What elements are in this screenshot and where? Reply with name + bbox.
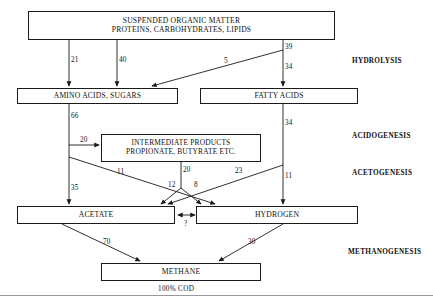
edge-label-suspended-to-fatty-39: 39 [285, 43, 292, 51]
node-label-line1: FATTY ACIDS [254, 92, 303, 101]
stage-label-acetogenesis: ACETOGENESIS [352, 169, 412, 177]
edge-label-intermediate-to-hydrogen-8: 8 [194, 181, 198, 189]
bottom-divider [0, 295, 433, 296]
stage-label-hydrolysis: HYDROLYSIS [352, 57, 402, 65]
arrow-acetate-to-methane-70 [62, 224, 140, 261]
arrow-intermediate-to-hydrogen-8 [181, 188, 201, 204]
flow-diagram: SUSPENDED ORGANIC MATTER PROTEINS, CARBO… [0, 0, 433, 302]
edge-label-suspended-to-amino-21: 21 [71, 56, 78, 64]
arrow-intermediate-to-acetate-12 [161, 188, 181, 204]
edge-label-acetate-to-methane-70: 70 [103, 238, 110, 246]
node-suspended-organic-matter: SUSPENDED ORGANIC MATTER PROTEINS, CARBO… [28, 11, 335, 40]
edge-label-fatty-outflow-34: 34 [285, 119, 292, 127]
stage-label-methanogenesis: METHANOGENESIS [348, 248, 421, 256]
edge-label-fatty-to-hydrogen-11: 11 [285, 172, 292, 180]
edge-label-amino-outflow-66: 66 [71, 112, 78, 120]
node-acetate: ACETATE [17, 206, 175, 224]
edge-label-amino-to-intermediate-20: 20 [80, 136, 87, 144]
stage-label-acidogenesis: ACIDOGENESIS [352, 132, 411, 140]
node-label-line1: HYDROGEN [255, 211, 299, 220]
node-label-line2: PROPIONATE, BUTYRATE ETC. [126, 148, 236, 157]
edge-label-intermediate-outflow-20: 20 [183, 166, 190, 174]
node-label-line2: PROTEINS, CARBOHYDRATES, LIPIDS [112, 26, 252, 35]
node-amino-acids-sugars: AMINO ACIDS, SUGARS [17, 88, 178, 104]
edge-label-acetate-hydrogen-exchange: ? [184, 220, 187, 228]
edge-label-suspended-to-amino-5: 5 [224, 57, 228, 65]
node-hydrogen: HYDROGEN [196, 206, 358, 224]
node-intermediate-products: INTERMEDIATE PRODUCTS PROPIONATE, BUTYRA… [101, 134, 261, 162]
edge-label-amino-to-acetate-35: 35 [71, 184, 78, 192]
node-fatty-acids: FATTY ACIDS [200, 88, 358, 104]
edge-label-intermediate-to-acetate-12: 12 [168, 181, 175, 189]
node-label-line1: ACETATE [79, 211, 114, 220]
edge-label-fatty-to-acetate-23: 23 [235, 167, 242, 175]
footer-cod-total: 100% COD [158, 285, 194, 293]
node-label-line1: METHANE [162, 268, 201, 277]
edge-label-suspended-to-amino-40: 40 [119, 56, 126, 64]
node-methane: METHANE [101, 263, 261, 281]
edge-label-suspended-to-fatty-34: 34 [285, 63, 292, 71]
edge-label-amino-to-hydrogen-11: 11 [117, 168, 124, 176]
edge-label-hydrogen-to-methane-30: 30 [248, 238, 255, 246]
arrow-suspended-to-amino-5 [152, 50, 283, 86]
node-label-line1: AMINO ACIDS, SUGARS [54, 92, 142, 101]
